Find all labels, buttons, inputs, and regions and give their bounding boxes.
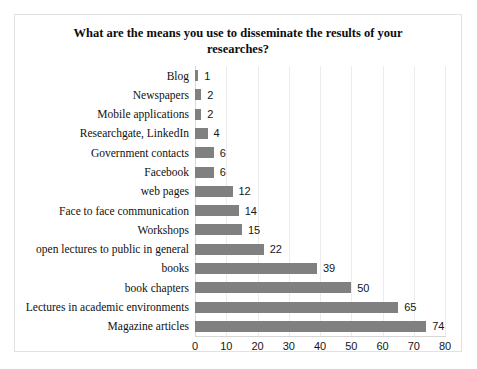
bar-track: 65 — [195, 297, 445, 316]
bar-value-label: 12 — [239, 185, 251, 197]
x-tick-label: 80 — [439, 340, 451, 352]
bar[interactable] — [195, 224, 242, 235]
bar-track: 14 — [195, 201, 445, 220]
bar-row: web pages12 — [15, 182, 463, 201]
category-label: Government contacts — [15, 147, 189, 159]
x-axis-tick-labels: 01020304050607080 — [195, 340, 445, 356]
bar-row: book chapters50 — [15, 278, 463, 297]
x-tick-label: 40 — [314, 340, 326, 352]
bar-track: 6 — [195, 143, 445, 162]
bar-value-label: 15 — [248, 224, 260, 236]
bar-track: 15 — [195, 220, 445, 239]
category-label: web pages — [15, 185, 189, 197]
bar-row: Face to face communication14 — [15, 201, 463, 220]
bar-row: books39 — [15, 259, 463, 278]
bar-row: open lectures to public in general22 — [15, 240, 463, 259]
bar-track: 2 — [195, 105, 445, 124]
category-label: Face to face communication — [15, 205, 189, 217]
x-tick-label: 0 — [192, 340, 198, 352]
x-tick-label: 60 — [376, 340, 388, 352]
chart-container: What are the means you use to disseminat… — [14, 14, 462, 352]
bar-track: 4 — [195, 124, 445, 143]
bar[interactable] — [195, 89, 201, 100]
category-label: Magazine articles — [15, 320, 189, 332]
bar[interactable] — [195, 167, 214, 178]
bar-row: Workshops15 — [15, 220, 463, 239]
bar-row: Government contacts6 — [15, 143, 463, 162]
bar-row: Facebook6 — [15, 162, 463, 181]
x-axis-line — [195, 336, 446, 337]
bar-value-label: 14 — [245, 205, 257, 217]
bar[interactable] — [195, 321, 426, 332]
bar-row: Newspapers2 — [15, 85, 463, 104]
category-label: Blog — [15, 70, 189, 82]
category-label: book chapters — [15, 282, 189, 294]
bar[interactable] — [195, 147, 214, 158]
category-label: Mobile applications — [15, 108, 189, 120]
bar-track: 50 — [195, 278, 445, 297]
bar-value-label: 6 — [220, 147, 226, 159]
bar-value-label: 50 — [357, 282, 369, 294]
bar-value-label: 65 — [404, 301, 416, 313]
bar-track: 1 — [195, 66, 445, 85]
bar-value-label: 22 — [270, 243, 282, 255]
bar-row: Blog1 — [15, 66, 463, 85]
bar-row: Magazine articles74 — [15, 317, 463, 336]
bar-value-label: 74 — [432, 320, 444, 332]
bar-track: 6 — [195, 162, 445, 181]
chart-title: What are the means you use to disseminat… — [55, 25, 421, 57]
bar[interactable] — [195, 302, 398, 313]
bar-row: Researchgate, LinkedIn4 — [15, 124, 463, 143]
bar[interactable] — [195, 263, 317, 274]
bar[interactable] — [195, 128, 208, 139]
category-label: Lectures in academic environments — [15, 301, 189, 313]
bar-rows: Blog1Newspapers2Mobile applications2Rese… — [15, 66, 463, 336]
bar[interactable] — [195, 282, 351, 293]
x-tick-label: 10 — [220, 340, 232, 352]
category-label: Researchgate, LinkedIn — [15, 127, 189, 139]
category-label: open lectures to public in general — [15, 243, 189, 255]
bar[interactable] — [195, 205, 239, 216]
x-tick-label: 50 — [345, 340, 357, 352]
category-label: Facebook — [15, 166, 189, 178]
bar-track: 2 — [195, 85, 445, 104]
category-label: Workshops — [15, 224, 189, 236]
bar-value-label: 6 — [220, 166, 226, 178]
bar[interactable] — [195, 70, 198, 81]
bar-value-label: 2 — [207, 108, 213, 120]
bar-track: 22 — [195, 240, 445, 259]
x-tick-label: 30 — [283, 340, 295, 352]
category-label: books — [15, 262, 189, 274]
bar-track: 12 — [195, 182, 445, 201]
x-tick-label: 20 — [251, 340, 263, 352]
bar-value-label: 4 — [214, 127, 220, 139]
x-tick-label: 70 — [408, 340, 420, 352]
bar[interactable] — [195, 244, 264, 255]
bar-row: Mobile applications2 — [15, 105, 463, 124]
bar[interactable] — [195, 109, 201, 120]
bar-value-label: 39 — [323, 262, 335, 274]
bar-track: 74 — [195, 317, 445, 336]
category-label: Newspapers — [15, 89, 189, 101]
bar-value-label: 1 — [204, 70, 210, 82]
bar[interactable] — [195, 186, 233, 197]
bar-value-label: 2 — [207, 89, 213, 101]
bar-row: Lectures in academic environments65 — [15, 297, 463, 316]
bar-track: 39 — [195, 259, 445, 278]
